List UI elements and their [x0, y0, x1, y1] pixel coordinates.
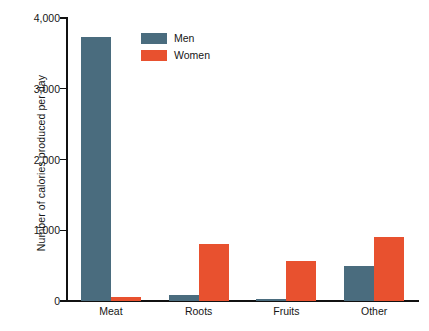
x-axis-label-roots: Roots [185, 305, 212, 317]
bar-meat-men [81, 37, 111, 301]
bar-chart: Number of calories produced per day 01,0… [0, 0, 429, 331]
x-axis-label-meat: Meat [99, 305, 122, 317]
y-axis-tick-mark [60, 17, 67, 18]
y-axis-tick-mark [60, 159, 67, 160]
legend-label-men: Men [174, 33, 194, 44]
x-axis-label-fruits: Fruits [273, 305, 299, 317]
legend-swatch-men [141, 33, 167, 44]
x-axis-label-other: Other [361, 305, 387, 317]
legend-label-women: Women [174, 50, 210, 61]
y-axis-tick-mark [60, 300, 67, 301]
chart-legend: MenWomen [141, 31, 210, 65]
legend-item-men: Men [141, 31, 210, 46]
y-axis-tick-label: 0 [16, 295, 60, 307]
y-axis-tick-label: 2,000 [16, 154, 60, 166]
y-axis-tick-label: 1,000 [16, 224, 60, 236]
y-axis-tick-mark [60, 230, 67, 231]
bars-layer [67, 18, 418, 301]
y-axis-tick-mark [60, 88, 67, 89]
bar-meat-women [111, 297, 141, 301]
bar-other-men [344, 266, 374, 301]
legend-item-women: Women [141, 48, 210, 63]
y-axis-tick-label: 3,000 [16, 83, 60, 95]
bar-fruits-men [256, 299, 286, 301]
bar-fruits-women [286, 261, 316, 301]
bar-other-women [374, 237, 404, 301]
y-axis-tick-label: 4,000 [16, 12, 60, 24]
bar-roots-men [169, 295, 199, 301]
bar-roots-women [199, 244, 229, 301]
legend-swatch-women [141, 50, 167, 61]
